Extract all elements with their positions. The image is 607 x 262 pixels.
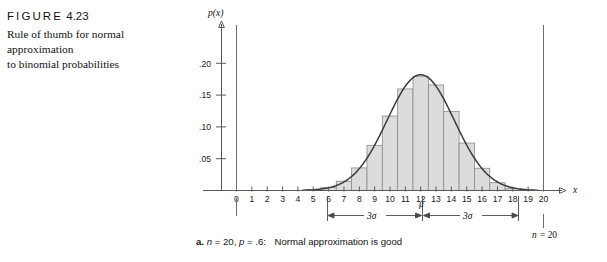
y-axis-tick-label: .10 <box>199 122 211 132</box>
caption-p-symbol: p <box>239 236 244 247</box>
n-marker-value: = 20 <box>540 230 557 240</box>
x-axis-tick-label: 7 <box>342 194 347 204</box>
bracket-arrow-right-end <box>512 213 518 218</box>
x-axis-tick-label: 2 <box>265 194 270 204</box>
x-axis-tick-label: 13 <box>431 194 441 204</box>
x-axis-tick-label: 18 <box>508 194 518 204</box>
y-axis-tick-label: .20 <box>199 59 211 69</box>
x-axis-tick-label: 11 <box>401 194 410 204</box>
n-marker-text: n <box>532 230 537 240</box>
bracket-arrow-left-start <box>328 213 334 218</box>
x-axis-tick-label: 20 <box>539 194 549 204</box>
bracket-arrow-left-end <box>416 213 422 218</box>
caption-p-value: = .6: <box>247 236 266 247</box>
x-axis-tick-label: 6 <box>326 194 331 204</box>
x-axis-tick-label: 4 <box>296 194 301 204</box>
histogram-bar <box>459 143 474 190</box>
mu-label: μ <box>418 199 424 209</box>
x-axis-tick-label: 9 <box>372 194 377 204</box>
y-axis-label: p(x) <box>207 7 223 19</box>
chart-figure: p(x) x .05.10.15.20 01234567891011121314… <box>0 0 607 262</box>
histogram-bars <box>306 76 521 190</box>
three-sigma-right-label: 3σ <box>462 211 473 221</box>
histogram-bar <box>428 85 443 191</box>
x-axis-tick-label: 1 <box>249 194 254 204</box>
x-axis-tick-label: 3 <box>280 194 285 204</box>
x-axis-tick-label: 17 <box>493 194 503 204</box>
x-axis-tick-label: 19 <box>523 194 533 204</box>
n-marker: n = 20 <box>532 230 557 240</box>
x-axis-tick-label: 14 <box>447 194 457 204</box>
binomial-normal-chart: p(x) x .05.10.15.20 01234567891011121314… <box>0 0 607 262</box>
three-sigma-left-label: 3σ <box>366 211 377 221</box>
caption-n-symbol: n <box>207 236 212 247</box>
y-axis-tick-label: .05 <box>199 154 211 164</box>
caption-n-value: = 20, <box>215 236 237 247</box>
caption-item-letter: a. <box>196 236 204 247</box>
x-axis-tick-label: 5 <box>311 194 316 204</box>
x-axis-label: x <box>572 184 578 195</box>
bracket-arrow-right-start <box>424 213 430 218</box>
histogram-bar <box>398 89 413 191</box>
histogram-bar <box>413 76 428 190</box>
y-axis-tick-label: .15 <box>199 90 211 100</box>
histogram-bar <box>382 116 397 190</box>
histogram-bar <box>367 145 382 190</box>
x-axis-tick-label: 8 <box>357 194 362 204</box>
caption-conclusion: Normal approximation is good <box>275 236 402 247</box>
x-axis-tick-label: 15 <box>462 194 472 204</box>
x-axis-tick-label: 10 <box>385 194 395 204</box>
plot-caption: a. n = 20, p = .6: Normal approximation … <box>196 236 402 247</box>
x-axis-tick-label: 16 <box>477 194 487 204</box>
histogram-bar <box>444 111 459 190</box>
